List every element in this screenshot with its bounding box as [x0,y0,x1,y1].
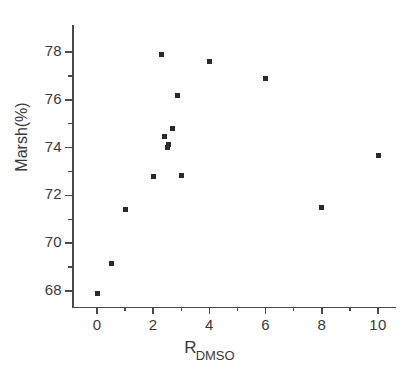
x-tick-major [321,307,323,314]
x-tick-minor [349,307,351,311]
y-tick-minor [68,123,72,125]
y-tick-label: 70 [24,233,62,250]
x-axis-title: RDMSO [150,338,270,360]
y-axis-title: Marsh(%) [13,67,31,207]
data-point [175,93,180,98]
x-tick-minor [124,307,126,311]
x-axis-title-subscript: DMSO [196,348,235,363]
y-tick-minor [68,219,72,221]
y-axis-line [72,25,74,308]
data-point [123,207,128,212]
data-point [162,134,167,139]
y-tick-major [65,51,72,53]
data-point [376,153,381,158]
x-tick-major [96,307,98,314]
x-tick-major [209,307,211,314]
y-tick-major [65,290,72,292]
scatter-plot-figure: 687072747678 0246810 Marsh(%) RDMSO [0,0,418,374]
data-point [319,205,324,210]
data-point [179,173,184,178]
data-point [95,291,100,296]
x-tick-label: 2 [133,316,173,333]
x-tick-minor [237,307,239,311]
y-tick-major [65,147,72,149]
data-point [165,145,170,150]
x-tick-label: 10 [358,316,398,333]
x-tick-label: 8 [302,316,342,333]
x-tick-label: 6 [246,316,286,333]
x-axis-line [72,307,396,309]
y-tick-label: 68 [24,281,62,298]
y-tick-major [65,242,72,244]
x-tick-minor [293,307,295,311]
y-tick-minor [68,171,72,173]
data-point [263,76,268,81]
x-tick-label: 4 [189,316,229,333]
x-tick-minor [181,307,183,311]
x-tick-label: 0 [77,316,117,333]
y-tick-minor [68,75,72,77]
y-tick-minor [68,266,72,268]
plot-area: 687072747678 0246810 Marsh(%) RDMSO [0,0,418,374]
data-point [159,52,164,57]
y-tick-major [65,195,72,197]
y-tick-label: 78 [24,42,62,59]
data-point [207,59,212,64]
x-tick-major [265,307,267,314]
x-tick-major [152,307,154,314]
data-point [109,261,114,266]
data-point [151,174,156,179]
y-tick-major [65,99,72,101]
data-point [170,126,175,131]
x-axis-title-base: R [184,338,196,357]
x-tick-major [377,307,379,314]
